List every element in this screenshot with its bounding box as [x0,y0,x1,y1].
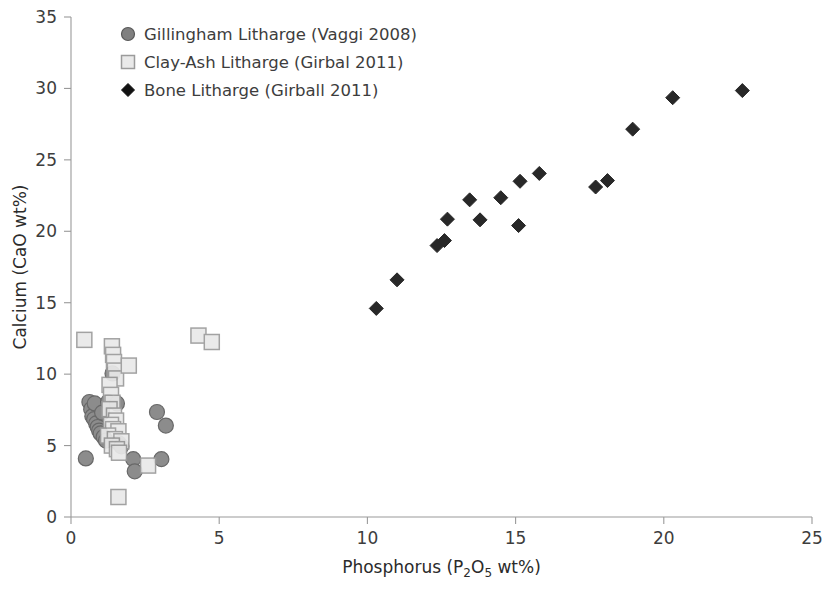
x-tick-label: 5 [214,528,225,548]
data-point-square [204,335,219,350]
data-point-diamond [369,301,383,315]
series-3 [369,84,749,316]
data-point-diamond [440,212,454,226]
data-point-square [121,358,136,373]
legend-label: Clay-Ash Litharge (Girbal 2011) [144,53,403,72]
legend-marker-diamond [122,84,135,97]
data-point-diamond [626,122,640,136]
series-1 [78,366,173,479]
data-point-circle [158,418,173,433]
x-tick-label: 25 [801,528,823,548]
y-tick-label: 0 [46,507,57,527]
legend-marker-square [122,56,135,69]
scatter-chart: 051015202530350510152025 Gillingham Lith… [0,0,838,592]
data-point-square [112,445,127,460]
y-tick-label: 10 [35,364,57,384]
data-point-diamond [600,174,614,188]
data-point-diamond [494,191,508,205]
y-tick-label: 15 [35,293,57,313]
data-point-diamond [512,219,526,233]
data-point-diamond [589,180,603,194]
data-point-square [77,332,92,347]
y-tick-label: 30 [35,78,57,98]
chart-legend: Gillingham Litharge (Vaggi 2008)Clay-Ash… [122,25,417,100]
legend-marker-circle [122,28,135,41]
plot-canvas: 051015202530350510152025 Gillingham Lith… [0,0,838,592]
data-point-diamond [390,273,404,287]
data-point-circle [149,405,164,420]
data-points-layer [77,84,750,505]
data-point-diamond [463,193,477,207]
x-tick-label: 20 [653,528,675,548]
data-point-square [111,490,126,505]
legend-label: Bone Litharge (Girball 2011) [144,81,378,100]
data-point-circle [78,451,93,466]
x-tick-label: 15 [505,528,527,548]
x-axis-title: Phosphorus (P2O5 wt%) [342,557,541,580]
x-tick-label: 0 [66,528,77,548]
data-point-diamond [666,91,680,105]
data-point-square [141,458,156,473]
data-point-diamond [513,174,527,188]
y-tick-label: 5 [46,436,57,456]
legend-label: Gillingham Litharge (Vaggi 2008) [144,25,417,44]
y-axis-title: Calcium (CaO wt%) [10,185,30,350]
data-point-diamond [532,166,546,180]
y-tick-label: 20 [35,221,57,241]
x-tick-label: 10 [357,528,379,548]
y-tick-label: 35 [35,7,57,27]
axis-titles-layer: Calcium (CaO wt%)Phosphorus (P2O5 wt%) [10,185,541,580]
data-point-diamond [473,213,487,227]
data-point-diamond [735,84,749,98]
y-tick-label: 25 [35,150,57,170]
